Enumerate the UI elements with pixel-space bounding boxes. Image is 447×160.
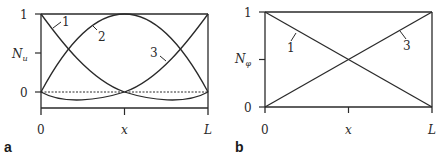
panel-b-leader-3	[400, 31, 406, 39]
panel-a-leader-3	[160, 56, 166, 61]
panel-b: 1 3 1 0 Nφ 0 x L b	[234, 6, 436, 155]
panel-b-xtick-label-L: L	[427, 123, 436, 137]
panel-b-leader-1	[291, 33, 296, 41]
panel-b-ytick-label-0: 0	[244, 101, 252, 115]
panel-a-curve-label-3: 3	[150, 46, 158, 60]
panel-b-curve-label-1: 1	[287, 41, 295, 55]
panel-a-curve-label-2: 2	[98, 30, 106, 44]
panel-b-xtick-label-0: 0	[261, 123, 269, 137]
panel-b-ytick-label-1: 1	[244, 6, 252, 20]
panel-a-label: a	[4, 139, 12, 155]
panel-b-ylabel: Nφ	[234, 52, 252, 68]
panel-b-label: b	[235, 139, 244, 155]
panel-a: 1 2 3 1 0 Nu 0 x L a	[4, 8, 212, 155]
panel-a-xtick-label-x: x	[121, 123, 128, 137]
panel-a-ylabel: Nu	[11, 47, 28, 63]
panel-b-xtick-label-x: x	[345, 123, 352, 137]
panel-a-leader-2	[92, 25, 97, 30]
panel-a-leader-1	[53, 22, 61, 28]
panel-a-ytick-label-0: 0	[20, 86, 28, 100]
panel-a-xtick-label-0: 0	[37, 123, 45, 137]
panel-b-curve-label-3: 3	[403, 39, 411, 53]
figure: 1 2 3 1 0 Nu 0 x L a 1 3	[0, 0, 447, 160]
panel-a-curve-label-1: 1	[62, 15, 70, 29]
panel-a-xtick-label-L: L	[203, 123, 212, 137]
panel-a-ytick-label-1: 1	[20, 8, 28, 22]
